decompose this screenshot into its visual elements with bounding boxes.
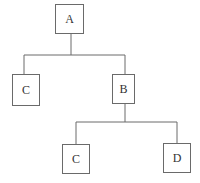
node-c-left: C xyxy=(13,75,40,106)
node-b: B xyxy=(113,75,135,104)
node-d: D xyxy=(164,144,191,173)
node-c-bottom-label: C xyxy=(72,152,80,166)
node-c-left-label: C xyxy=(22,83,30,97)
node-a-label: A xyxy=(65,12,74,26)
node-c-bottom: C xyxy=(63,145,90,174)
node-b-label: B xyxy=(119,82,127,96)
tree-diagram: A C B C D xyxy=(0,0,200,183)
node-a: A xyxy=(56,5,84,34)
node-d-label: D xyxy=(173,151,182,165)
edges xyxy=(24,33,177,144)
